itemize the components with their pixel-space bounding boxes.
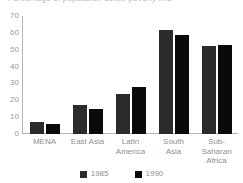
y-axis-tick-label: 60 [0,29,19,37]
x-axis-tick-label: Sub-SaharanAfrica [195,137,238,166]
bar [132,87,146,134]
x-axis-tick-line: Saharan [195,147,238,157]
x-axis-tick-line: Latin [109,137,152,147]
y-axis-tick-label: 20 [0,96,19,104]
x-axis-tick-label: MENA [23,137,66,147]
bar [218,45,232,134]
bar-chart: Percentage of population below poverty l… [0,0,243,183]
x-axis-tick-line: MENA [23,137,66,147]
bar [159,30,173,135]
x-axis-tick-line: East Asia [66,137,109,147]
bar [73,105,87,134]
bar-group [116,16,146,134]
chart-title-strip: Percentage of population below poverty l… [0,0,243,8]
x-axis-tick-label: LatinAmerica [109,137,152,156]
bar-group [73,16,103,134]
bar-group [202,16,232,134]
legend-item[interactable]: 1990 [135,170,164,178]
y-axis: 010203040506070 [0,16,19,134]
legend-swatch-icon [135,171,142,178]
legend-label: 1985 [91,170,109,178]
chart-title: Percentage of population below poverty l… [8,0,172,3]
x-axis-tick-label: SouthAsia [152,137,195,156]
x-axis-tick-label: East Asia [66,137,109,147]
chart-legend: 19851990 [0,168,243,180]
bar-group [159,16,189,134]
y-axis-tick-label: 10 [0,113,19,121]
legend-label: 1990 [146,170,164,178]
bar [30,122,44,134]
y-axis-tick-label: 50 [0,46,19,54]
legend-swatch-icon [80,171,87,178]
y-axis-tick-label: 0 [0,130,19,138]
bar [46,124,60,134]
bars-layer [23,16,238,134]
bar [89,109,103,134]
x-axis-tick-line: Africa [195,156,238,166]
y-axis-tick-label: 30 [0,79,19,87]
bar [116,94,130,134]
bar-group [30,16,60,134]
x-axis-tick-line: Asia [152,147,195,157]
x-axis-tick-line: South [152,137,195,147]
x-axis-tick-line: America [109,147,152,157]
bar [175,35,189,134]
y-axis-tick-label: 40 [0,63,19,71]
bar [202,46,216,134]
y-axis-tick-label: 70 [0,12,19,20]
legend-item[interactable]: 1985 [80,170,109,178]
x-axis-tick-line: Sub- [195,137,238,147]
